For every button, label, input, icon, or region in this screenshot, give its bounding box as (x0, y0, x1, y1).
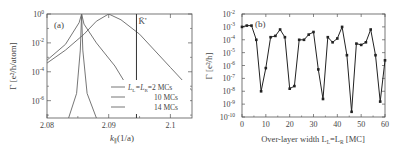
data-point-marker (360, 44, 363, 47)
tick-label: 10-6 (31, 95, 44, 106)
data-point-marker (269, 36, 272, 39)
svg-text:2.1: 2.1 (165, 121, 175, 130)
tick-label: 10-9 (222, 99, 235, 110)
data-point-marker (307, 33, 310, 36)
tick-label: 10-2 (31, 37, 44, 48)
data-point-marker (350, 111, 353, 114)
panel-b-chart: 10-210-310-410-510-610-710-810-910-10 01… (200, 0, 404, 151)
data-point-marker (260, 90, 263, 93)
panel-b-xlabel: Over-layer width LL=LR [MC] (261, 134, 365, 145)
data-point-marker (303, 39, 306, 42)
data-point-marker (250, 24, 253, 27)
panel-b-label: (b) (255, 19, 266, 29)
tick-label: 10-7 (222, 73, 235, 84)
tick-label: 10-3 (222, 21, 235, 32)
data-point-marker (312, 31, 315, 34)
kbar-label: K̄' (138, 16, 146, 26)
data-point-marker (322, 98, 325, 101)
data-point-marker (336, 37, 339, 40)
data-point-marker (293, 85, 296, 88)
panel-b-markers (241, 24, 387, 113)
legend-entry-10mc: 10 MCs (154, 93, 178, 102)
tick-label: 100 (33, 9, 44, 20)
data-point-marker (355, 42, 358, 45)
tick-label: 10-4 (31, 66, 44, 77)
svg-text:2.09: 2.09 (102, 121, 116, 130)
data-point-marker (374, 54, 377, 57)
tick-label: 10-8 (222, 86, 235, 97)
curve-0 (47, 14, 192, 91)
panel-a-xlabel: k∥(1/a) (110, 133, 134, 144)
svg-text:30: 30 (310, 120, 318, 129)
legend-entry-14mc: 14 MCs (154, 103, 178, 112)
data-point-marker (255, 39, 258, 42)
svg-text:60: 60 (381, 120, 389, 129)
panel-b-y-ticks: 10-210-310-410-510-610-710-810-910-10 (220, 9, 385, 123)
xlabel-unit: (1/a) (117, 133, 134, 143)
panel-a-chart: 10010-210-410-6 2.082.092.1 K̄' (a) Γ [e… (0, 0, 200, 151)
data-point-marker (298, 39, 301, 42)
data-point-marker (241, 26, 244, 29)
tick-label: 10-6 (222, 60, 235, 71)
panel-b-svg: 10-210-310-410-510-610-710-810-910-10 01… (200, 0, 404, 151)
panel-b-series-line (242, 26, 385, 112)
data-point-marker (369, 28, 372, 31)
curve-2 (69, 14, 97, 118)
svg-text:0: 0 (240, 120, 244, 129)
tick-label: 10-5 (222, 47, 235, 58)
panel-b-ylabel: Γ [e²/h] (204, 52, 214, 79)
svg-text:2.08: 2.08 (40, 121, 54, 130)
tick-label: 10-4 (222, 34, 235, 45)
data-point-marker (279, 28, 282, 31)
panel-a-label: (a) (54, 20, 64, 30)
data-point-marker (284, 36, 287, 39)
svg-text:50: 50 (357, 120, 365, 129)
svg-text:20: 20 (286, 120, 294, 129)
panel-a-svg: 10010-210-410-6 2.082.092.1 K̄' (a) Γ [e… (0, 0, 200, 151)
data-point-marker (288, 87, 291, 90)
panel-b-axes-frame (242, 14, 385, 117)
tick-label: 10-10 (220, 112, 236, 123)
tick-label: 10-2 (222, 9, 235, 20)
data-point-marker (384, 59, 387, 62)
data-point-marker (331, 41, 334, 44)
panel-a-legend: LL=LR=2 MCs 10 MCs 14 MCs (108, 80, 190, 114)
data-point-marker (346, 54, 349, 57)
data-point-marker (246, 24, 249, 27)
data-point-marker (341, 26, 344, 29)
data-point-marker (317, 68, 320, 71)
data-point-marker (265, 67, 268, 70)
data-point-marker (365, 41, 368, 44)
data-point-marker (379, 100, 382, 103)
data-point-marker (327, 36, 330, 39)
svg-text:40: 40 (333, 120, 341, 129)
data-point-marker (274, 35, 277, 38)
panel-a-ylabel: Γ [e²/h/atom] (8, 42, 18, 90)
svg-text:10: 10 (262, 120, 270, 129)
